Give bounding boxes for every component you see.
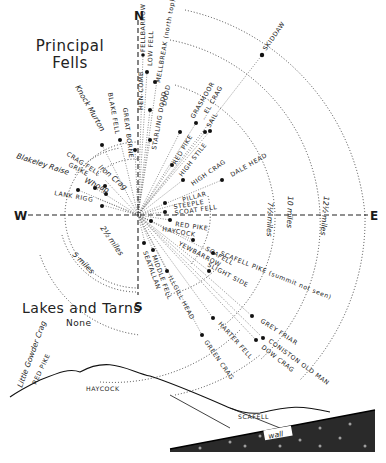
fell-label: STARLING DODD	[150, 90, 167, 150]
fell-label: SKIDDAW	[261, 20, 286, 51]
distance-label-2half: 2½ miles	[98, 224, 125, 257]
scafell-sketch-label: SCAFELL	[238, 413, 269, 420]
south-label: S	[134, 300, 143, 314]
fell-label: LOW FELL	[146, 30, 154, 66]
diagram-canvas: N S W E	[0, 0, 386, 463]
fell-label: Knock Murton	[73, 84, 107, 133]
fell-view-diagram: Principal Fells Lakes and Tarns None	[0, 0, 386, 463]
fell-label: LANK RIGG	[54, 189, 94, 203]
distance-label-12half: 12½ miles	[319, 196, 331, 236]
east-label: E	[370, 209, 378, 223]
ridge-line	[10, 365, 330, 414]
fell-label: GREAT BORNE	[122, 107, 135, 158]
fell-label: HIGH CRAG	[190, 158, 227, 187]
distance-label-10: 10 miles	[285, 196, 295, 228]
fell-label: MELLBREAK (north top)	[154, 0, 177, 83]
fell-label: Blakeley Raise	[15, 151, 70, 177]
distance-label-5: 5 miles	[71, 250, 97, 276]
ring-2half-nw	[65, 142, 138, 215]
fell-label: FELLBARROW	[139, 4, 146, 52]
fell-label: DALE HEAD	[229, 151, 268, 178]
fell-label: Whoap	[83, 176, 111, 195]
fell-labels: SKIDDAW FELLBARROW LOW FELL MELLBREAK (n…	[15, 0, 332, 386]
west-label: W	[14, 209, 27, 223]
fell-label: HEN COMB	[137, 71, 144, 110]
fell-label: BLAKE FELL	[107, 92, 121, 135]
haycock-sketch-label: HAYCOCK	[86, 385, 120, 392]
ring-2half	[62, 235, 138, 292]
panorama-sketch: HAYCOCK SCAFELL wall Little Gowder Crag …	[10, 319, 375, 452]
fell-label: GREEN CRAG	[203, 339, 236, 381]
ring-10	[170, 40, 320, 215]
distance-label-7half: 7½ miles	[265, 202, 275, 237]
fell-label: HARTER FELL	[217, 320, 254, 360]
